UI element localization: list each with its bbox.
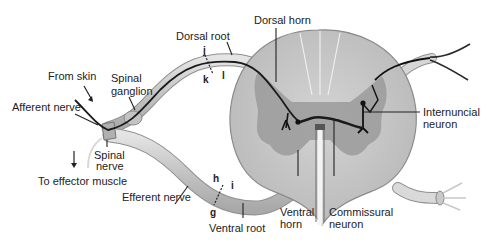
label-afferent-nerve: Afferent nerve bbox=[12, 101, 81, 113]
label-spinal-ganglion-line1: Spinal bbox=[111, 72, 142, 84]
label-ventral-horn-line1: Ventral bbox=[280, 206, 314, 218]
label-ventral-root: Ventral root bbox=[209, 222, 265, 234]
label-to-effector-muscle: To effector muscle bbox=[38, 175, 127, 187]
label-letter-j: j bbox=[203, 45, 206, 57]
label-letter-i: i bbox=[231, 180, 234, 192]
label-dorsal-horn: Dorsal horn bbox=[254, 14, 311, 26]
label-commissural-neuron-line2: neuron bbox=[329, 218, 363, 230]
spinal-nerve-stump bbox=[102, 122, 116, 140]
label-efferent-nerve: Efferent nerve bbox=[122, 191, 191, 203]
label-letter-g: g bbox=[210, 207, 216, 219]
label-dorsal-root: Dorsal root bbox=[176, 30, 230, 42]
label-letter-k: k bbox=[203, 74, 209, 86]
label-spinal-nerve-line2: nerve bbox=[96, 160, 124, 172]
label-letter-h: h bbox=[213, 173, 219, 185]
label-from-skin: From skin bbox=[48, 70, 96, 82]
diagram-artwork bbox=[0, 0, 490, 246]
label-internuncial-neuron-line1: Internuncial bbox=[423, 106, 480, 118]
label-spinal-ganglion-line2: ganglion bbox=[111, 85, 153, 97]
label-internuncial-neuron-line2: neuron bbox=[423, 118, 457, 130]
label-letter-l: l bbox=[222, 70, 225, 82]
label-commissural-neuron-line1: Commissural bbox=[329, 206, 393, 218]
reflex-arc-diagram: Dorsal horn Dorsal root j k l From skin … bbox=[0, 0, 490, 246]
label-ventral-horn-line2: horn bbox=[280, 218, 302, 230]
